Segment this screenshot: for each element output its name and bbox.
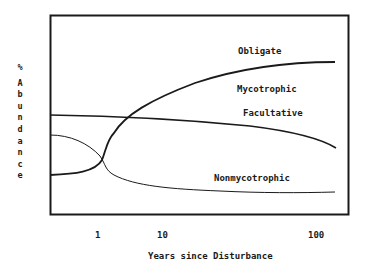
x-tick-100: 100 [308,230,324,240]
label-nonmycotrophic: Nonmycotrophic [214,173,290,183]
ylabel-char: % [14,62,26,74]
ylabel-char: n [14,112,26,124]
series-facultative-line [50,115,336,148]
ylabel-char: c [14,159,26,171]
label-obligate: Obligate [238,46,282,56]
series-obligate-line [50,62,335,175]
ylabel-char: u [14,101,26,113]
plot-frame [51,16,349,215]
y-axis-label: % A b u n d a n c e [14,62,26,182]
label-facultative: Facultative [243,108,303,118]
ylabel-char: a [14,136,26,148]
x-axis-label: Years since Disturbance [148,251,273,261]
series-nonmycotrophic-line [50,135,335,193]
ylabel-char: d [14,124,26,136]
ylabel-char: b [14,89,26,101]
chart: Obligate Mycotrophic Facultative Nonmyco… [0,0,366,269]
ylabel-char: n [14,147,26,159]
label-mycotrophic: Mycotrophic [237,84,297,94]
x-tick-1: 1 [95,230,100,240]
x-tick-10: 10 [157,230,168,240]
ylabel-char: A [14,78,26,90]
ylabel-char: e [14,170,26,182]
